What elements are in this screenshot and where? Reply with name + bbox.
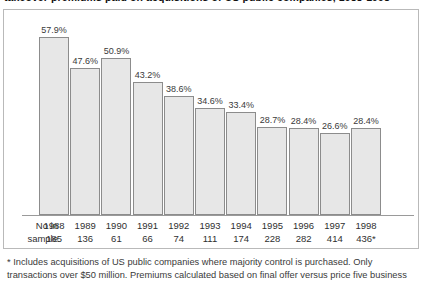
page-title: takeover premiums paid on acquisitions o… xyxy=(4,0,390,3)
axis-year-1998: 1998 xyxy=(344,220,388,231)
axis-sample-table: No in sample 198818519891361990611991661… xyxy=(4,218,418,249)
bar-1990 xyxy=(101,58,131,215)
bar-1996 xyxy=(289,128,319,215)
plot-area: 57.9%47.6%50.9%43.2%38.6%34.6%33.4%28.7%… xyxy=(4,10,418,216)
bar-value-label-1991: 43.2% xyxy=(126,70,170,80)
bar-value-label-1988: 57.9% xyxy=(32,25,76,35)
footnote-line-1: * Includes acquisitions of US public com… xyxy=(7,256,417,269)
bar-value-label-1990: 50.9% xyxy=(94,46,138,56)
bar-1993 xyxy=(195,108,225,215)
bar-value-label-1989: 47.6% xyxy=(63,56,107,66)
bar-1995 xyxy=(257,127,287,215)
bar-1992 xyxy=(164,96,194,215)
chart-panel: 57.9%47.6%50.9%43.2%38.6%34.6%33.4%28.7%… xyxy=(3,9,419,249)
footnote: * Includes acquisitions of US public com… xyxy=(7,256,417,282)
bar-value-label-1998: 28.4% xyxy=(344,116,388,126)
bar-1997 xyxy=(320,133,350,215)
bar-value-label-1992: 38.6% xyxy=(157,84,201,94)
bar-1994 xyxy=(226,112,256,215)
bar-value-label-1994: 33.4% xyxy=(219,100,263,110)
bar-1991 xyxy=(133,82,163,215)
chart-page: takeover premiums paid on acquisitions o… xyxy=(0,0,422,286)
footnote-line-2: transactions over $50 million. Premiums … xyxy=(7,269,417,282)
axis-sample-1998: 436* xyxy=(344,233,388,244)
chart-title-strip: takeover premiums paid on acquisitions o… xyxy=(0,0,422,8)
x-axis-baseline xyxy=(22,215,414,216)
bar-1989 xyxy=(70,68,100,215)
bar-1998 xyxy=(351,128,381,215)
